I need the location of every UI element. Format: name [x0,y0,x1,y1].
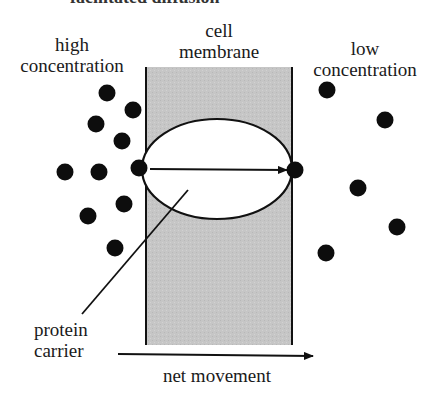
molecule [80,208,97,225]
molecule [319,82,336,99]
high-concentration-label: high concentration [8,34,136,76]
molecule [107,240,124,257]
protein-carrier-label: protein carrier [34,319,88,361]
molecule [350,180,367,197]
molecule [99,85,116,102]
molecule [287,162,304,179]
membrane-label-line2: membrane [160,41,278,62]
net-movement-arrow [118,354,313,356]
membrane-label-line1: cell [160,20,278,41]
molecule [57,164,74,181]
molecule [377,112,394,129]
net-movement-label: net movement [150,365,284,386]
molecule [91,164,108,181]
low-label-line2: concentration [302,59,428,80]
molecule [88,116,105,133]
transport-arrow [150,169,287,170]
high-label-line2: concentration [8,55,136,76]
molecule [114,133,131,150]
high-label-line1: high [8,34,136,55]
protein-label-line2: carrier [34,340,88,361]
molecules-low-concentration [318,82,406,262]
molecule [116,196,133,213]
protein-label-line1: protein [34,319,88,340]
molecule [389,219,406,236]
low-concentration-label: low concentration [302,38,428,80]
low-label-line1: low [302,38,428,59]
cell-membrane-label: cell membrane [160,20,278,62]
molecules-high-concentration [57,85,142,257]
molecule [125,102,142,119]
molecule [318,245,335,262]
facilitated-diffusion-diagram: facilitated diffusion [0,0,432,399]
molecule [131,160,148,177]
